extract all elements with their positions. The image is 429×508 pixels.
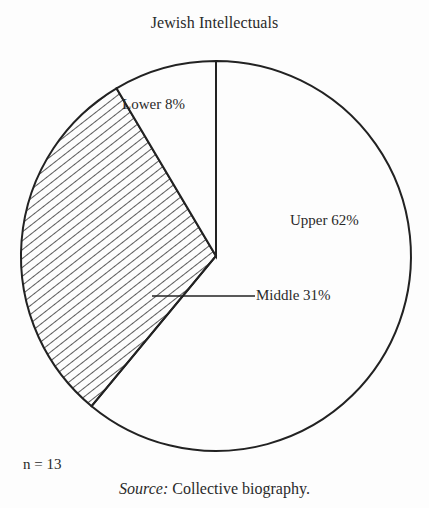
label-lower: Lower 8% <box>122 96 185 113</box>
label-upper: Upper 62% <box>290 212 359 229</box>
label-middle: Middle 31% <box>256 287 331 304</box>
source-prefix: Source: <box>119 480 168 497</box>
sample-size-label: n = 13 <box>23 456 61 473</box>
source-note: Source: Collective biography. <box>0 480 429 498</box>
source-text: Collective biography. <box>168 480 310 497</box>
pie-chart <box>0 0 429 508</box>
